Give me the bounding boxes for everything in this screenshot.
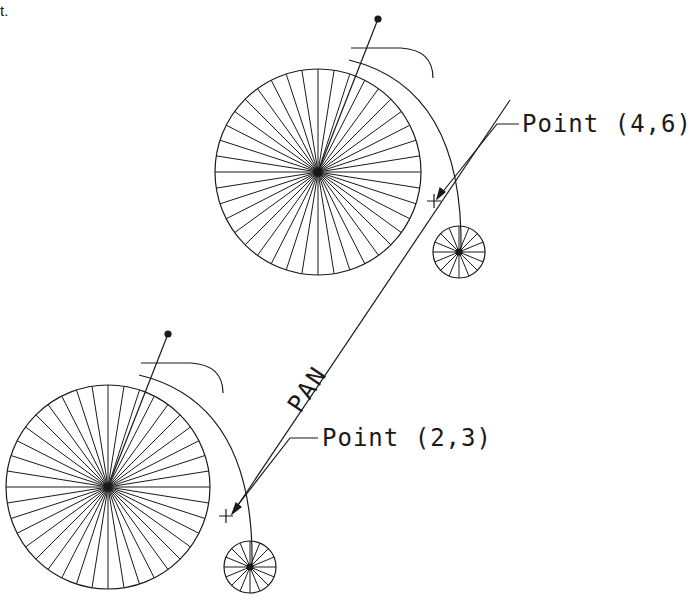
drawing-canvas [0,0,698,602]
pan-arrowhead [232,503,241,514]
leader-point-4-6 [441,124,519,194]
upper-bike-seat [351,48,433,78]
label-point-2-3: Point (2,3) [322,424,492,452]
corner-text-fragment: t. [0,2,8,19]
pan-diagram: t. Point (4,6) Point (2,3) PAN [0,0,698,602]
lower-bike-seat [141,363,223,393]
upper-bike-handle-grip [375,16,381,22]
lower-bike-handle-grip [165,331,171,337]
label-point-4-6: Point (4,6) [522,110,692,138]
lower-bike-handlebar-pole [108,334,168,487]
upper-bike-handlebar-pole [318,19,378,172]
crosshair-point-2-3 [219,509,233,523]
